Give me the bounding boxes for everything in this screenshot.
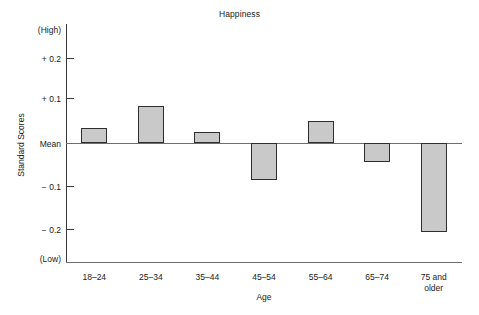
y-tick-label-3: − 0.1 [0, 182, 61, 192]
chart-title: Happiness [0, 9, 479, 19]
bar [251, 143, 277, 180]
bar [421, 143, 447, 232]
x-axis-line [66, 262, 462, 263]
y-tick-mark-1 [67, 98, 74, 99]
x-axis-category-label: 45–54 [236, 272, 293, 283]
figure: Happiness Standard Scores Age (High) + 0… [0, 0, 479, 315]
bar [194, 132, 220, 143]
y-tick-label-1: + 0.1 [0, 94, 61, 104]
bar [364, 143, 390, 162]
x-axis-label: Age [66, 292, 462, 302]
y-tick-mark-3 [67, 186, 74, 187]
y-tick-label-low: (Low) [0, 254, 61, 264]
y-tick-label-2: Mean [0, 139, 61, 149]
x-axis-category-label: 35–44 [179, 272, 236, 283]
y-tick-label-4: − 0.2 [0, 225, 61, 235]
bar [138, 106, 164, 143]
y-tick-mark-0 [67, 58, 74, 59]
x-axis-category-label: 75 andolder [405, 272, 462, 293]
x-axis-category-label: 18–24 [66, 272, 123, 283]
x-axis-category-label: 65–74 [349, 272, 406, 283]
y-tick-label-high: (High) [0, 25, 61, 35]
x-axis-category-label: 25–34 [123, 272, 180, 283]
bar [308, 121, 334, 143]
y-tick-mark-4 [67, 229, 74, 230]
y-tick-label-0: + 0.2 [0, 54, 61, 64]
x-axis-category-label: 55–64 [292, 272, 349, 283]
bar [81, 128, 107, 143]
plot-area [66, 24, 462, 262]
